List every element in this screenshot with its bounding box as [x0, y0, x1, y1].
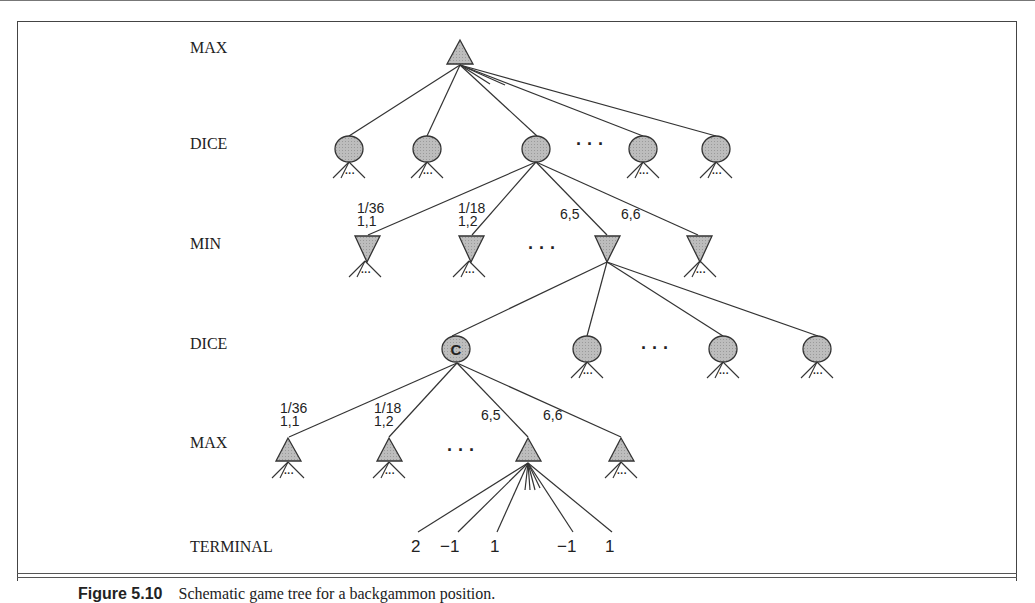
terminal-value: 1	[605, 537, 614, 556]
caption-text: Schematic game tree for a backgammon pos…	[178, 585, 495, 602]
svg-text:· · ·: · · ·	[447, 440, 475, 460]
svg-text:···: ···	[423, 168, 433, 179]
dice-node	[522, 136, 550, 162]
caption-label: Figure 5.10	[78, 585, 162, 602]
svg-text:···: ···	[385, 468, 395, 479]
svg-text:···: ···	[712, 168, 722, 179]
level-label-dice: DICE	[190, 135, 227, 152]
min-node	[687, 236, 712, 262]
svg-text:···: ···	[583, 368, 593, 379]
level-label-max-2: MAX	[190, 434, 228, 451]
max-node	[516, 438, 541, 461]
svg-text:···: ···	[696, 267, 706, 278]
edge-roll-1-2: 1,2	[458, 213, 478, 229]
level-label-dice-2: DICE	[190, 335, 227, 352]
terminal-value: 2	[411, 537, 420, 556]
dice-node	[413, 136, 441, 162]
terminal-value: −1	[440, 537, 459, 556]
dice-node	[709, 336, 737, 362]
svg-text:· · ·: · · ·	[528, 238, 556, 258]
level-label-min: MIN	[190, 235, 222, 252]
svg-text:· · ·: · · ·	[576, 134, 604, 154]
edge-roll-6-6: 6,6	[543, 407, 563, 423]
svg-text:···: ···	[813, 368, 823, 379]
edge-roll-1-2: 1,2	[374, 413, 394, 429]
svg-text:···: ···	[617, 468, 627, 479]
edge-roll-1-1: 1,1	[280, 413, 300, 429]
dice-node	[702, 136, 730, 162]
max-node	[276, 438, 301, 461]
dice-node	[803, 336, 831, 362]
svg-text:···: ···	[284, 468, 294, 479]
min-node	[595, 236, 620, 262]
edge-roll-6-6: 6,6	[621, 206, 641, 222]
min-node	[459, 236, 484, 262]
edge-roll-1-1: 1,1	[357, 213, 377, 229]
svg-text:···: ···	[345, 168, 355, 179]
max-node	[377, 438, 402, 461]
edge-roll-6-5: 6,5	[560, 206, 580, 222]
level-label-max: MAX	[190, 39, 228, 56]
terminal-value: 1	[490, 537, 499, 556]
svg-text:···: ···	[361, 267, 371, 278]
dice-node	[573, 336, 601, 362]
svg-text:···: ···	[719, 368, 729, 379]
chance-node-label: C	[451, 341, 462, 358]
edge-roll-6-5: 6,5	[481, 407, 501, 423]
dice-node	[335, 136, 363, 162]
tree-edges	[289, 65, 818, 532]
terminal-value: −1	[557, 537, 576, 556]
min-node	[355, 236, 380, 262]
figure-caption: Figure 5.10 Schematic game tree for a ba…	[78, 585, 495, 603]
dice-node	[629, 136, 657, 162]
max-node	[609, 438, 634, 461]
level-label-terminal: TERMINAL	[190, 538, 273, 555]
max-node-root	[447, 40, 473, 64]
svg-text:···: ···	[465, 267, 475, 278]
svg-text:···: ···	[639, 168, 649, 179]
svg-text:· · ·: · · ·	[641, 338, 669, 358]
